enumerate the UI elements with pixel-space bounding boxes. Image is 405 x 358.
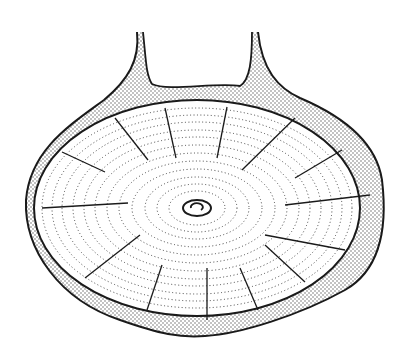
illustration bbox=[0, 0, 405, 358]
inner-body-outline bbox=[34, 100, 360, 316]
stippled-outer-shell bbox=[26, 32, 384, 336]
stalk-notch bbox=[143, 32, 252, 87]
shell-cross-section-diagram bbox=[0, 0, 405, 358]
